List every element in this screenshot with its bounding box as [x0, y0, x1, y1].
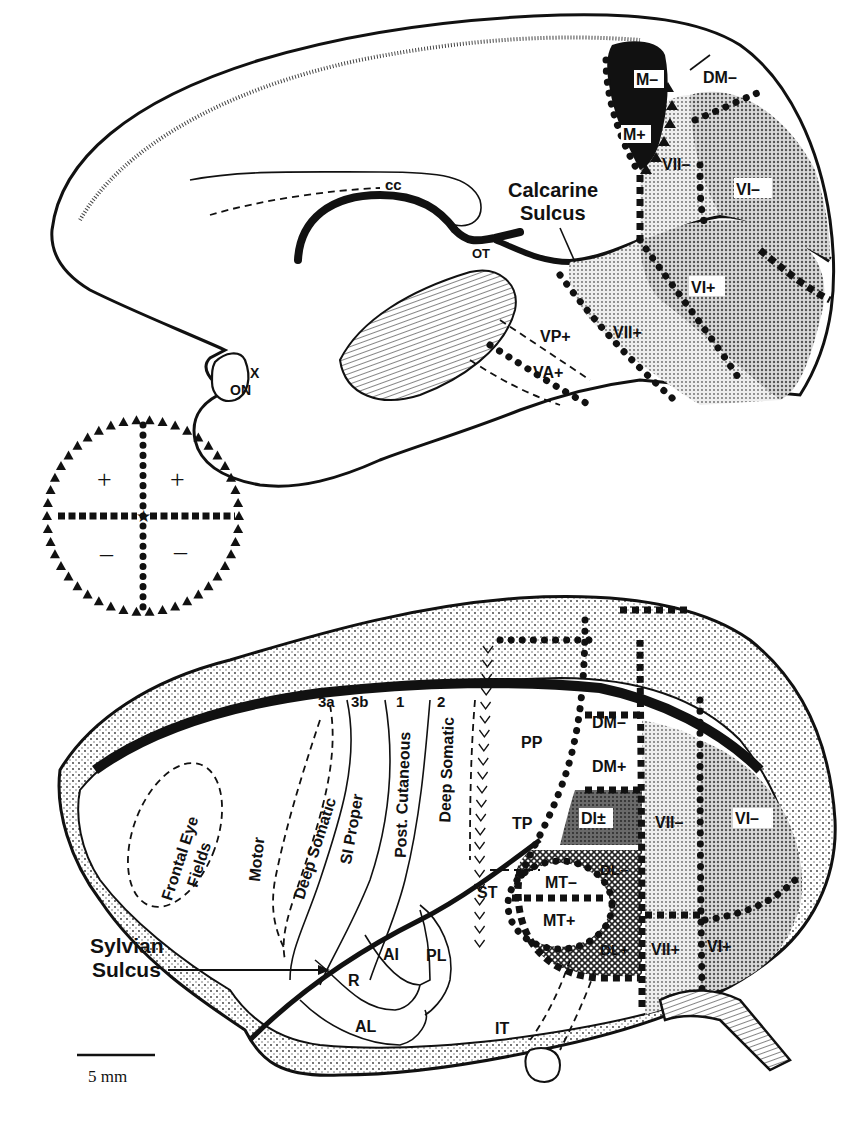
legend-triangle-mark	[145, 415, 155, 424]
legend-upper-right-sign: +	[170, 465, 185, 494]
dm-minus-leader	[690, 55, 710, 70]
cranial-nerve-stub	[525, 1048, 560, 1082]
legend-triangle-mark	[106, 601, 116, 610]
label-medial-dm-minus: DM–	[703, 69, 737, 86]
lateral-border-v2-v1	[700, 700, 702, 990]
label-va-plus: VA+	[533, 364, 563, 381]
label-m-minus: M–	[636, 71, 658, 88]
label-pl: PL	[426, 947, 447, 964]
brainstem	[660, 991, 790, 1070]
legend-triangle-mark	[50, 549, 60, 558]
label-mt-minus: MT–	[545, 874, 577, 891]
label-m-plus: M+	[623, 126, 646, 143]
label-medial-v1-plus: VI+	[691, 279, 715, 296]
label-area-2: 2	[437, 693, 445, 710]
label-it: IT	[495, 1020, 509, 1037]
legend-triangle-mark	[226, 549, 236, 558]
legend-triangle-mark	[118, 605, 128, 614]
label-medial-v2-minus: VII–	[662, 156, 691, 173]
figure-canvas: cc OT X ON Calcarine Sulcus M– M+ DM– VI…	[0, 0, 860, 1142]
legend-triangle-mark	[233, 524, 243, 533]
label-dl-minus: DL–	[600, 861, 628, 878]
legend-triangle-mark	[42, 511, 52, 520]
label-di: DI±	[581, 810, 606, 827]
label-medial-v1-minus: VI–	[736, 181, 760, 198]
calcarine-arrow	[560, 228, 575, 262]
label-vp-plus: VP+	[540, 328, 571, 345]
scale-bar: 5 mm	[77, 1055, 155, 1086]
legend-triangle-mark	[43, 498, 53, 507]
legend-center-star-icon: ★	[136, 506, 151, 526]
legend-triangle-mark	[94, 596, 104, 605]
legend-triangle-mark	[106, 421, 116, 430]
legend-triangle-mark	[220, 461, 230, 470]
legend-triangle-mark	[46, 537, 56, 546]
label-st: ST	[477, 884, 498, 901]
legend-triangle-mark	[212, 450, 222, 459]
cingulate-sulcus	[190, 172, 481, 226]
visual-field-legend: ★ + + – –	[42, 415, 244, 616]
label-mt-plus: MT+	[543, 912, 575, 929]
legend-triangle-mark	[170, 601, 180, 610]
label-sylvian-line2: Sulcus	[92, 958, 161, 981]
legend-triangle-mark	[212, 572, 222, 581]
label-area-3b: 3b	[351, 693, 369, 710]
lateral-hemisphere-view: 3a 3b 1 2 Frontal Eye Fields Motor Deep …	[59, 597, 835, 1082]
legend-triangle-mark	[46, 485, 56, 494]
legend-triangle-mark	[158, 605, 168, 614]
label-medial-v2-plus: VII+	[613, 324, 642, 341]
legend-triangle-mark	[118, 417, 128, 426]
legend-triangle-mark	[233, 498, 243, 507]
label-pp: PP	[521, 734, 543, 751]
medial-hemisphere-view: cc OT X ON Calcarine Sulcus M– M+ DM– VI…	[52, 15, 834, 486]
label-tp: TP	[512, 815, 533, 832]
brain-map-figure: cc OT X ON Calcarine Sulcus M– M+ DM– VI…	[0, 0, 860, 1142]
legend-upper-left-sign: +	[97, 465, 112, 494]
legend-triangle-mark	[182, 596, 192, 605]
scale-bar-label: 5 mm	[88, 1067, 127, 1086]
label-cc: cc	[385, 176, 402, 193]
legend-triangle-mark	[56, 461, 66, 470]
legend-triangle-mark	[56, 561, 66, 570]
label-on: ON	[230, 382, 251, 398]
legend-lower-right-sign: –	[173, 537, 188, 566]
label-lateral-dm-minus: DM–	[592, 714, 626, 731]
label-dl-plus: DL+	[600, 941, 629, 958]
legend-triangle-mark	[72, 581, 82, 590]
legend-triangle-mark	[234, 511, 244, 520]
legend-triangle-mark	[94, 426, 104, 435]
temporal-hatched-region	[340, 271, 516, 400]
legend-triangle-mark	[204, 441, 214, 450]
legend-triangle-mark	[204, 581, 214, 590]
legend-triangle-mark	[193, 589, 203, 598]
legend-triangle-mark	[64, 450, 74, 459]
label-ai: AI	[383, 946, 399, 963]
label-lateral-v2-plus: VII+	[651, 941, 680, 958]
label-x: X	[250, 365, 260, 381]
label-r: R	[348, 972, 360, 989]
label-calcarine-line1: Calcarine	[508, 179, 598, 201]
label-calcarine-line2: Sulcus	[520, 202, 586, 224]
legend-triangle-mark	[50, 473, 60, 482]
legend-triangle-mark	[83, 433, 93, 442]
label-lateral-v1-plus: VI+	[707, 938, 731, 955]
label-al: AL	[355, 1018, 377, 1035]
legend-lower-left-sign: –	[99, 539, 114, 568]
legend-triangle-mark	[220, 561, 230, 570]
label-lateral-dm-plus: DM+	[592, 758, 626, 775]
legend-triangle-mark	[230, 537, 240, 546]
legend-triangle-mark	[182, 426, 192, 435]
label-lateral-v1-minus: VI–	[735, 810, 759, 827]
legend-triangle-mark	[158, 417, 168, 426]
label-area-3a: 3a	[318, 693, 335, 710]
legend-triangle-mark	[43, 524, 53, 533]
label-area-1: 1	[396, 693, 404, 710]
legend-triangle-mark	[131, 415, 141, 424]
legend-triangle-mark	[64, 572, 74, 581]
legend-triangle-mark	[83, 589, 93, 598]
label-sylvian-line1: Sylvian	[90, 934, 164, 957]
label-lateral-v2-minus: VII–	[655, 814, 684, 831]
legend-triangle-mark	[170, 421, 180, 430]
legend-triangle-mark	[72, 441, 82, 450]
label-ot: OT	[472, 246, 490, 261]
